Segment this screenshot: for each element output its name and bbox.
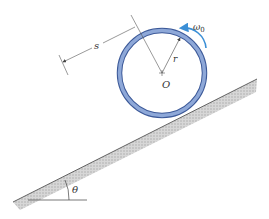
rolling-hoop-diagram: θ O r s ω0	[0, 0, 269, 219]
center-label-O: O	[162, 79, 170, 90]
radius-label-r: r	[173, 54, 178, 64]
incline-ground	[13, 79, 257, 210]
incline-surface-line	[13, 79, 257, 202]
omega-label: ω0	[193, 22, 205, 34]
s-extension-line-left	[59, 55, 68, 75]
s-label: s	[94, 40, 99, 51]
theta-label: θ	[72, 184, 78, 195]
s-dimension-line-left	[63, 48, 92, 62]
s-dimension-line-right	[103, 27, 135, 43]
s-extension-line-right	[131, 15, 162, 73]
